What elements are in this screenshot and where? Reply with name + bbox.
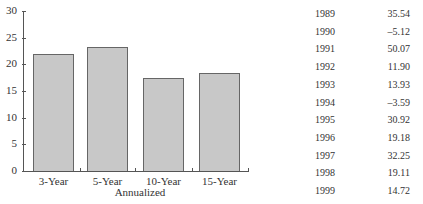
table-row: 199914.72: [315, 185, 410, 199]
y-tick-label: 20: [0, 58, 17, 69]
year-cell: 1998: [315, 167, 335, 178]
table-row: 199732.25: [315, 150, 410, 164]
return-cell: 11.90: [388, 61, 410, 72]
y-tick-label: 0: [0, 165, 17, 176]
return-cell: 19.18: [388, 132, 411, 143]
y-tick-label: 10: [0, 112, 17, 123]
year-cell: 1990: [315, 26, 335, 37]
y-tick-mark: [22, 38, 26, 39]
x-axis: [23, 171, 249, 172]
table-row: 1994–3.59: [315, 97, 410, 111]
return-cell: 30.92: [388, 114, 411, 125]
y-tick-mark: [22, 171, 26, 172]
year-cell: 1993: [315, 79, 335, 90]
y-tick-label: 5: [0, 138, 17, 149]
year-cell: 1989: [315, 8, 335, 19]
return-cell: 14.72: [388, 185, 411, 196]
bar-3-year: [33, 54, 74, 171]
y-tick-label: 30: [0, 5, 17, 16]
year-cell: 1997: [315, 150, 335, 161]
year-cell: 1991: [315, 43, 335, 54]
x-tick-label: 15-Year: [190, 175, 250, 187]
y-tick-label: 15: [0, 85, 17, 96]
x-tick-mark: [135, 168, 136, 171]
year-cell: 1995: [315, 114, 335, 125]
y-tick-label: 25: [0, 32, 17, 43]
table-row: 199211.90: [315, 61, 410, 75]
table-row: 199619.18: [315, 132, 410, 146]
return-cell: 32.25: [388, 150, 411, 161]
y-tick-mark: [22, 64, 26, 65]
y-tick-mark: [22, 144, 26, 145]
table-row: 198935.54: [315, 8, 410, 22]
x-axis-title: Annualized: [100, 186, 180, 198]
x-tick-mark: [80, 168, 81, 171]
bar-15-year: [199, 73, 240, 171]
bar-5-year: [87, 47, 128, 171]
table-row: 199530.92: [315, 114, 410, 128]
y-tick-mark: [22, 91, 26, 92]
return-cell: 35.54: [388, 8, 411, 19]
year-cell: 1992: [315, 61, 335, 72]
x-tick-label: 5-Year: [78, 175, 138, 187]
x-tick-mark: [192, 168, 193, 171]
y-tick-mark: [22, 118, 26, 119]
table-row: 1990–5.12: [315, 26, 410, 40]
return-cell: 13.93: [388, 79, 411, 90]
year-cell: 1999: [315, 185, 335, 196]
table-row: 199819.11: [315, 167, 410, 181]
return-cell: –3.59: [388, 97, 411, 108]
y-tick-mark: [22, 11, 26, 12]
year-cell: 1996: [315, 132, 335, 143]
x-tick-label: 3-Year: [24, 175, 84, 187]
year-cell: 1994: [315, 97, 335, 108]
return-cell: 50.07: [388, 43, 411, 54]
table-row: 199313.93: [315, 79, 410, 93]
x-tick-label: 10-Year: [134, 175, 194, 187]
x-tick-mark: [248, 168, 249, 171]
chart-figure: Annualized 0510152025303-Year5-Year10-Ye…: [0, 0, 423, 204]
table-row: 199150.07: [315, 43, 410, 57]
return-cell: –5.12: [388, 26, 411, 37]
return-cell: 19.11: [388, 167, 410, 178]
bar-10-year: [143, 78, 184, 171]
